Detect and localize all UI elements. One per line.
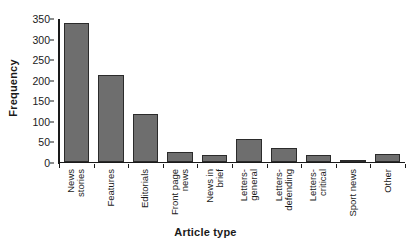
x-label-slot: News inbrief bbox=[197, 168, 232, 222]
x-label-slot: Sport news bbox=[336, 168, 371, 222]
bar bbox=[64, 23, 90, 162]
x-axis-category-label-line1: Editorials bbox=[139, 169, 150, 208]
x-label-slot: Other bbox=[370, 168, 405, 222]
x-axis-category-label: Letters-general bbox=[239, 169, 259, 201]
bar-slot bbox=[163, 18, 198, 162]
x-axis-category-label: Front pagenews bbox=[170, 169, 190, 215]
y-axis-tick-label: 300 bbox=[32, 34, 50, 45]
x-axis-category-label: Newsstories bbox=[66, 169, 86, 197]
y-axis-tick-mark bbox=[50, 163, 54, 164]
bar bbox=[98, 75, 124, 162]
bar-slot bbox=[301, 18, 336, 162]
y-axis-tick-label: 50 bbox=[38, 137, 50, 148]
x-axis-category-label-line1: Features bbox=[105, 169, 116, 207]
bar bbox=[236, 139, 262, 162]
x-label-slot: Editorials bbox=[128, 168, 163, 222]
bar-slot bbox=[128, 18, 163, 162]
bar bbox=[167, 152, 193, 162]
y-axis-tick-label: 100 bbox=[32, 117, 50, 128]
x-axis-category-label-line2: brief bbox=[215, 169, 225, 203]
x-axis-tick-mark bbox=[405, 164, 406, 168]
bar bbox=[340, 160, 366, 162]
bar bbox=[202, 155, 228, 162]
x-axis-category-label: Editorials bbox=[140, 169, 150, 208]
y-axis-tick-label: 250 bbox=[32, 55, 50, 66]
x-axis-category-label-line2: defending bbox=[284, 169, 294, 211]
x-axis-category-label: Letters-critical bbox=[308, 169, 328, 201]
x-label-slot: Letters-general bbox=[232, 168, 267, 222]
x-axis-title: Article type bbox=[0, 226, 411, 238]
x-axis-category-label-line1: Sport news bbox=[347, 169, 358, 217]
x-axis-category-label: Sport news bbox=[348, 169, 358, 217]
bar-slot bbox=[267, 18, 302, 162]
y-axis-tick-mark bbox=[50, 142, 54, 143]
x-axis-category-label-line2: news bbox=[180, 169, 190, 215]
x-axis-category-label-line1: Other bbox=[382, 169, 393, 193]
x-label-slot: Newsstories bbox=[59, 168, 94, 222]
x-axis-category-label: Features bbox=[106, 169, 116, 207]
y-axis-tick-mark bbox=[50, 121, 54, 122]
x-axis-category-label-line2: stories bbox=[76, 169, 86, 197]
x-label-slot: Letters-critical bbox=[301, 168, 336, 222]
x-axis-category-label-line2: critical bbox=[318, 169, 328, 201]
y-axis-tick-mark bbox=[50, 19, 54, 20]
bar-slot bbox=[94, 18, 129, 162]
plot-area bbox=[58, 19, 405, 163]
y-axis-tick-label: 200 bbox=[32, 75, 50, 86]
bar-slot bbox=[370, 18, 405, 162]
bar-series bbox=[59, 18, 405, 162]
bar bbox=[271, 148, 297, 162]
y-axis-tick-mark bbox=[50, 39, 54, 40]
bar-chart: Frequency 350300250200150100500 Newsstor… bbox=[0, 0, 411, 247]
y-axis-tick-mark bbox=[50, 60, 54, 61]
y-axis-tick-label: 350 bbox=[32, 14, 50, 25]
bar-slot bbox=[59, 18, 94, 162]
x-label-slot: Letters-defending bbox=[267, 168, 302, 222]
x-axis-category-label-line2: general bbox=[249, 169, 259, 201]
x-label-slot: Features bbox=[94, 168, 129, 222]
x-axis-category-labels: NewsstoriesFeaturesEditorialsFront pagen… bbox=[59, 168, 405, 222]
x-axis-category-label: Other bbox=[383, 169, 393, 193]
bar bbox=[133, 114, 159, 162]
bar-slot bbox=[232, 18, 267, 162]
bar-slot bbox=[197, 18, 232, 162]
x-label-slot: Front pagenews bbox=[163, 168, 198, 222]
y-axis-tick-mark bbox=[50, 101, 54, 102]
bar bbox=[375, 154, 401, 162]
x-axis-category-label: News inbrief bbox=[205, 169, 225, 203]
y-axis-title: Frequency bbox=[2, 0, 24, 175]
bar bbox=[306, 155, 332, 162]
bar-slot bbox=[336, 18, 371, 162]
y-axis-tick-mark bbox=[50, 80, 54, 81]
y-axis-tick-labels: 350300250200150100500 bbox=[24, 19, 54, 163]
y-axis-tick-label: 150 bbox=[32, 96, 50, 107]
y-axis-title-text: Frequency bbox=[7, 59, 19, 116]
x-axis-category-label: Letters-defending bbox=[274, 169, 294, 211]
